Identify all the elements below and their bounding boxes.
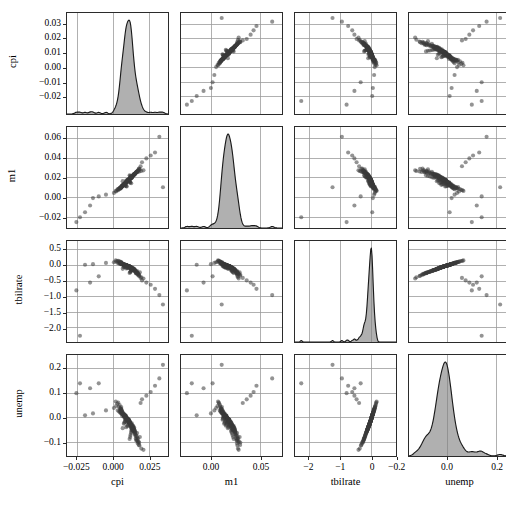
y-tick-label-tbilrate: −1.0 (44, 291, 61, 301)
y-tick-label-unemp: 0.0 (49, 412, 61, 422)
panel-m1-vs-cpi (180, 12, 283, 115)
y-tick-mark-cpi (63, 83, 66, 84)
x-axis-label-unemp: unemp (408, 476, 506, 487)
y-tick-label-tbilrate: 0.5 (49, 243, 61, 253)
x-axis-label-tbilrate: tbilrate (294, 476, 397, 487)
y-tick-mark-m1 (63, 218, 66, 219)
panel-cpi-vs-unemp (66, 354, 169, 457)
y-tick-mark-tbilrate (63, 281, 66, 282)
panel-unemp-vs-unemp (408, 354, 506, 457)
y-tick-mark-cpi (63, 38, 66, 39)
panel-cpi-vs-m1 (66, 126, 169, 229)
y-tick-label-tbilrate: −1.5 (44, 307, 61, 317)
y-tick-mark-tbilrate (63, 265, 66, 266)
y-tick-label-cpi: 0.03 (44, 18, 61, 28)
y-tick-label-m1: 0.02 (44, 172, 61, 182)
x-tick-mark-unemp (397, 457, 398, 460)
x-tick-mark-tbilrate (372, 457, 373, 460)
panel-cpi-vs-cpi (66, 12, 169, 115)
panel-unemp-vs-tbilrate (408, 240, 506, 343)
y-axis-label-text-unemp: unemp (13, 389, 24, 418)
x-tick-mark-tbilrate (308, 457, 309, 460)
y-tick-mark-cpi (63, 97, 66, 98)
x-tick-mark-cpi (150, 457, 151, 460)
y-tick-label-cpi: −0.01 (39, 77, 61, 87)
y-tick-mark-cpi (63, 24, 66, 25)
x-tick-mark-cpi (76, 457, 77, 460)
x-tick-label-unemp: 0.2 (467, 462, 506, 472)
x-tick-mark-unemp (447, 457, 448, 460)
y-tick-label-unemp: 0.1 (49, 387, 61, 397)
y-tick-mark-tbilrate (63, 329, 66, 330)
panel-m1-vs-unemp (180, 354, 283, 457)
y-tick-mark-unemp (63, 393, 66, 394)
y-tick-label-unemp: −0.1 (44, 437, 61, 447)
y-tick-label-tbilrate: 0.0 (49, 259, 61, 269)
y-axis-label-cpi: cpi (4, 56, 20, 67)
y-tick-mark-unemp (63, 368, 66, 369)
x-axis-label-cpi: cpi (66, 476, 169, 487)
y-tick-label-tbilrate: −0.5 (44, 275, 61, 285)
panel-tbilrate-vs-tbilrate (294, 240, 397, 343)
y-tick-label-m1: 0.00 (44, 192, 61, 202)
x-axis-label-m1: m1 (180, 476, 283, 487)
y-axis-label-unemp: unemp (4, 398, 20, 409)
y-tick-mark-m1 (63, 158, 66, 159)
y-tick-label-cpi: 0.00 (44, 62, 61, 72)
y-tick-mark-tbilrate (63, 297, 66, 298)
y-tick-label-cpi: −0.02 (39, 91, 61, 101)
y-tick-mark-tbilrate (63, 313, 66, 314)
x-tick-mark-tbilrate (340, 457, 341, 460)
y-tick-label-m1: −0.02 (39, 212, 61, 222)
y-tick-mark-unemp (63, 418, 66, 419)
panel-m1-vs-m1 (180, 126, 283, 229)
panel-unemp-vs-m1 (408, 126, 506, 229)
y-tick-mark-unemp (63, 443, 66, 444)
y-tick-mark-m1 (63, 178, 66, 179)
y-tick-mark-cpi (63, 53, 66, 54)
panel-tbilrate-vs-m1 (294, 126, 397, 229)
x-tick-mark-m1 (261, 457, 262, 460)
y-tick-mark-tbilrate (63, 249, 66, 250)
y-tick-label-m1: 0.06 (44, 132, 61, 142)
panel-unemp-vs-cpi (408, 12, 506, 115)
y-axis-label-m1: m1 (4, 170, 20, 181)
y-tick-mark-m1 (63, 198, 66, 199)
y-axis-label-text-m1: m1 (6, 168, 17, 181)
panel-tbilrate-vs-unemp (294, 354, 397, 457)
scatter-plot-matrix-figure: −0.02−0.010.000.010.020.03−0.020.000.020… (0, 0, 506, 512)
y-tick-label-cpi: 0.02 (44, 32, 61, 42)
y-tick-label-cpi: 0.01 (44, 47, 61, 57)
y-tick-label-m1: 0.04 (44, 152, 61, 162)
x-tick-mark-m1 (211, 457, 212, 460)
panel-m1-vs-tbilrate (180, 240, 283, 343)
x-tick-mark-cpi (113, 457, 114, 460)
y-tick-label-tbilrate: −2.0 (44, 323, 61, 333)
x-tick-label-cpi: 0.025 (120, 462, 180, 472)
y-axis-label-tbilrate: tbilrate (4, 284, 20, 295)
y-tick-mark-m1 (63, 138, 66, 139)
y-axis-label-text-cpi: cpi (6, 55, 17, 68)
y-tick-mark-cpi (63, 68, 66, 69)
y-tick-label-unemp: 0.2 (49, 362, 61, 372)
panel-cpi-vs-tbilrate (66, 240, 169, 343)
y-axis-label-text-tbilrate: tbilrate (13, 274, 24, 304)
x-tick-mark-unemp (497, 457, 498, 460)
panel-tbilrate-vs-cpi (294, 12, 397, 115)
